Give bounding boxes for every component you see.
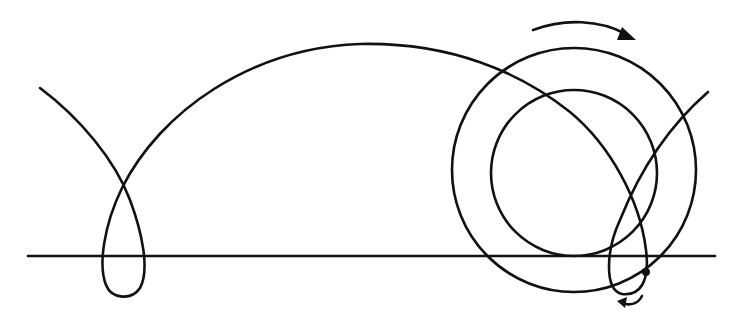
trochoid-diagram [0,0,743,325]
curved-arrow-right-icon [533,22,636,40]
curved-arrow-left-icon [617,296,642,308]
diagram-canvas [0,0,743,325]
tracing-point [642,268,650,276]
trochoid-curve [40,44,708,297]
